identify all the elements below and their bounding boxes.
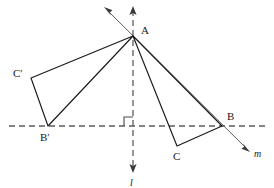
triangle-abc [133, 36, 222, 146]
transversal-line-m [108, 11, 246, 148]
line-label-m: m [254, 148, 261, 159]
vertex-label-c: C [173, 150, 180, 162]
triangle-a-b-prime-c-prime [31, 36, 133, 126]
vertex-label-b: B [227, 110, 234, 122]
figure-canvas: A B C B′ C′ l m [0, 0, 274, 188]
vertex-label-a: A [141, 24, 149, 36]
vertex-label-c-prime: C′ [13, 67, 23, 79]
vertex-label-b-prime: B′ [40, 131, 50, 143]
geometry-figure: A B C B′ C′ l m [0, 0, 274, 188]
line-label-l: l [130, 177, 133, 188]
right-angle-marker [124, 117, 133, 126]
